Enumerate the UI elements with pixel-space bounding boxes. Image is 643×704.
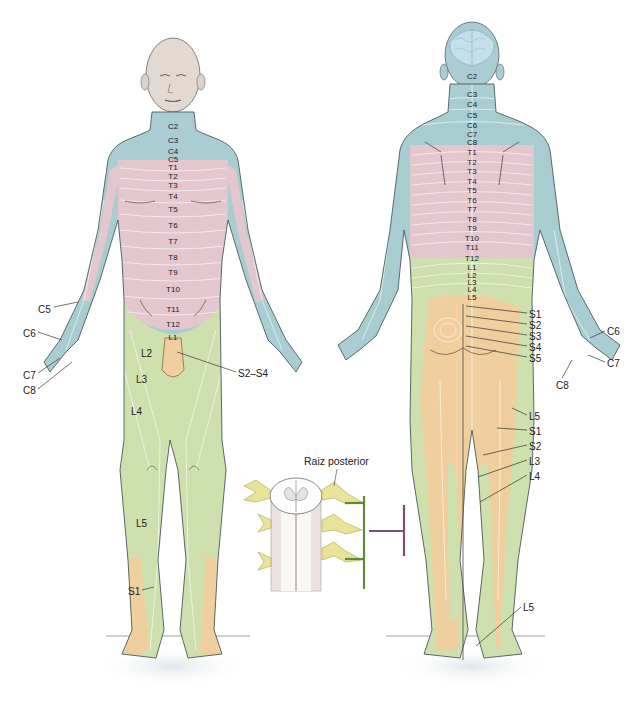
posterior-label-c7: C7 [607,359,620,369]
posterior-spine-label-c8: C8 [467,139,477,147]
anterior-spine-label-t12: T12 [166,321,180,329]
posterior-spine-label-t10: T10 [465,235,479,243]
posterior-label-l5: L5 [523,603,534,613]
inset-caption: Raiz posterior [304,455,369,467]
posterior-spine-label-t4: T4 [467,178,476,186]
posterior-label-s1: S1 [529,310,541,320]
anterior-spine-label-t2: T2 [168,173,177,181]
anterior-spine-label-c3: C3 [168,137,178,145]
anterior-spine-label-t8: T8 [168,254,177,262]
posterior-spine-label-t5: T5 [467,187,476,195]
posterior-spine-label-t2: T2 [467,159,476,167]
anterior-spine-label-t10: T10 [166,286,180,294]
posterior-spine-label-t7: T7 [467,206,476,214]
anterior-spine-label-t4: T4 [168,193,177,201]
anterior-spine-label-c2: C2 [168,123,178,131]
posterior-label-l4: L4 [529,472,540,482]
posterior-label-l3: L3 [529,457,540,467]
anterior-label-c8: C8 [23,386,36,396]
posterior-label-s2: S2 [529,442,541,452]
anterior-head [146,38,200,112]
anterior-label-l5: L5 [136,519,147,529]
anterior-label-l4: L4 [131,407,142,417]
posterior-label-s2: S2 [529,321,541,331]
anterior-spine-label-t11: T11 [166,306,179,314]
anterior-label-s2-s4: S2–S4 [238,369,268,379]
posterior-spine-label-c4: C4 [467,101,477,109]
anterior-spine-label-l1: L1 [169,334,178,342]
posterior-spine-label-c3: C3 [467,91,477,99]
posterior-spine-label-l5: L5 [468,294,477,302]
anterior-spine-label-t5: T5 [168,206,177,214]
dermatome-illustration [0,0,643,704]
posterior-label-s5: S5 [529,354,541,364]
posterior-spine-label-t1: T1 [467,149,476,157]
anterior-spine-label-t1: T1 [168,164,177,172]
anterior-figure [0,38,330,700]
green-brackets [345,496,364,589]
posterior-spine-label-t9: T9 [467,225,476,233]
anterior-spine-label-t7: T7 [168,238,177,246]
posterior-label-s1: S1 [529,427,541,437]
posterior-spine-label-t8: T8 [467,216,476,224]
anterior-spine-label-t9: T9 [168,269,177,277]
anterior-spine-label-t3: T3 [168,182,177,190]
anterior-label-c5: C5 [38,305,51,315]
purple-bracket [369,505,404,556]
anterior-spine-label-t6: T6 [168,222,177,230]
posterior-spine-label-c2: C2 [467,73,477,81]
anterior-label-c6: C6 [23,329,36,339]
posterior-spine-label-c5: C5 [467,112,477,120]
posterior-label-s4: S4 [529,343,541,353]
anterior-label-s1: S1 [128,587,140,597]
posterior-spine-label-c6: C6 [467,122,477,130]
posterior-label-s3: S3 [529,332,541,342]
anterior-label-l2: L2 [141,349,152,359]
posterior-spine-label-t3: T3 [467,168,476,176]
anterior-label-l3: L3 [136,375,147,385]
dermatome-figure: C2C3C4C5T1T2T3T4T5T6T7T8T9T10T11T12L1 C5… [0,0,643,704]
posterior-spine-label-t6: T6 [467,197,476,205]
posterior-label-c6: C6 [607,327,620,337]
posterior-label-c8: C8 [556,381,569,391]
spinal-cord-inset [244,469,404,591]
posterior-label-l5: L5 [529,412,540,422]
anterior-label-c7: C7 [23,371,36,381]
posterior-spine-label-t12: T12 [465,255,479,263]
posterior-figure [330,22,643,700]
anterior-genital-region [162,338,184,377]
posterior-spine-label-t11: T11 [465,244,478,252]
